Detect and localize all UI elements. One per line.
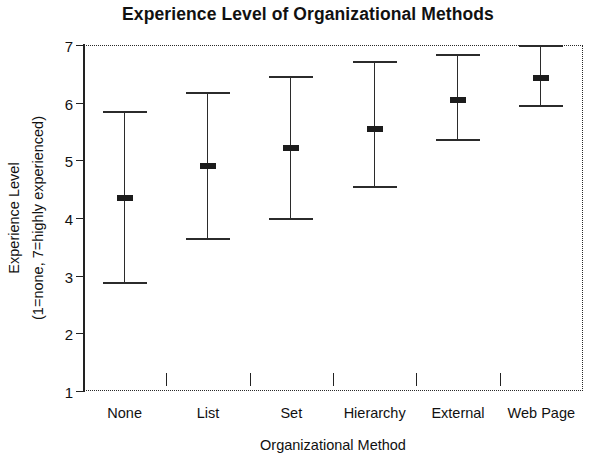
- y-tick-6: 6: [76, 103, 83, 104]
- plot-area: 1234567 NoneListSetHierarchyExternalWeb …: [83, 45, 583, 391]
- errorbar-cap-upper: [103, 111, 147, 113]
- y-tick-label-7: 7: [39, 39, 73, 54]
- x-tick-boundary-2: [250, 373, 251, 386]
- errorbar-cap-upper: [353, 61, 397, 63]
- errorbar-cap-upper: [519, 45, 563, 47]
- x-axis-label: Organizational Method: [83, 437, 583, 453]
- x-tick-boundary-5: [500, 373, 501, 386]
- chart-title: Experience Level of Organizational Metho…: [0, 4, 616, 25]
- errorbar-cap-upper: [186, 92, 230, 94]
- y-tick-label-1: 1: [39, 385, 73, 400]
- errorbar-mean-marker: [367, 126, 383, 132]
- errorbar-cap-upper: [436, 54, 480, 56]
- errorbar-line: [374, 61, 375, 188]
- errorbar-cap-lower: [519, 105, 563, 107]
- y-axis-line: [83, 44, 85, 392]
- x-tick-boundary-4: [416, 373, 417, 386]
- y-tick-label-3: 3: [39, 269, 73, 284]
- axis-top-border: [83, 45, 583, 46]
- y-tick-label-4: 4: [39, 212, 73, 227]
- x-tick-label-none: None: [107, 405, 142, 421]
- errorbar-cap-lower: [436, 139, 480, 141]
- x-tick-boundary-1: [166, 373, 167, 386]
- errorbar-cap-lower: [103, 282, 147, 284]
- y-tick-label-2: 2: [39, 327, 73, 342]
- chart-figure: Experience Level of Organizational Metho…: [0, 0, 616, 464]
- x-tick-label-hierarchy: Hierarchy: [344, 405, 406, 421]
- x-tick-label-external: External: [431, 405, 484, 421]
- y-tick-label-5: 5: [39, 154, 73, 169]
- errorbar-mean-marker: [533, 75, 549, 81]
- x-tick-label-set: Set: [280, 405, 302, 421]
- x-tick-label-web-page: Web Page: [508, 405, 575, 421]
- x-tick-label-list: List: [197, 405, 220, 421]
- y-tick-5: 5: [76, 160, 83, 161]
- x-tick-boundary-3: [333, 373, 334, 386]
- y-axis-label-line-1: Experience Level: [6, 162, 22, 273]
- errorbar-cap-upper: [269, 76, 313, 78]
- errorbar-cap-lower: [186, 238, 230, 240]
- y-tick-3: 3: [76, 276, 83, 277]
- x-axis-line: [83, 390, 583, 391]
- axis-right-border: [582, 45, 583, 391]
- y-tick-7: 7: [76, 45, 83, 46]
- errorbar-cap-lower: [269, 218, 313, 220]
- errorbar-mean-marker: [283, 145, 299, 151]
- y-tick-4: 4: [76, 218, 83, 219]
- y-tick-2: 2: [76, 333, 83, 334]
- y-tick-label-6: 6: [39, 96, 73, 111]
- errorbar-cap-lower: [353, 186, 397, 188]
- errorbar-mean-marker: [450, 97, 466, 103]
- errorbar-mean-marker: [200, 163, 216, 169]
- y-tick-1: 1: [76, 391, 83, 392]
- errorbar-mean-marker: [117, 195, 133, 201]
